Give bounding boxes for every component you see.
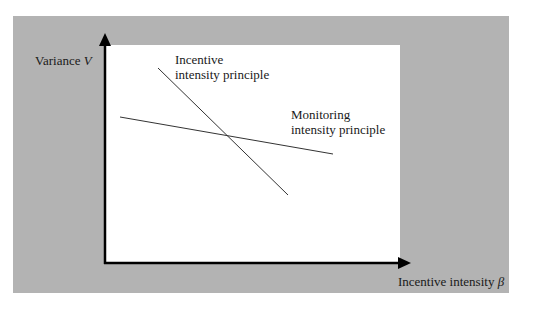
- x-axis-symbol: β: [498, 274, 504, 289]
- monitoring-annotation-line1: Monitoring: [291, 107, 385, 122]
- x-axis-label: Incentive intensity β: [398, 274, 504, 289]
- monitoring-principle-annotation: Monitoring intensity principle: [291, 107, 385, 137]
- diagram-canvas: [0, 0, 542, 319]
- y-axis-arrow-icon: [99, 33, 111, 46]
- monitoring-annotation-line2: intensity principle: [291, 122, 385, 137]
- y-axis-label: Variance V: [35, 53, 92, 68]
- incentive-annotation-line2: intensity principle: [175, 67, 269, 82]
- y-axis-label-text: Variance: [35, 53, 84, 68]
- incentive-intensity-line: [158, 68, 288, 195]
- x-axis-arrow-icon: [398, 257, 411, 269]
- y-axis-symbol: V: [84, 53, 92, 68]
- incentive-principle-annotation: Incentive intensity principle: [175, 52, 269, 82]
- incentive-annotation-line1: Incentive: [175, 52, 269, 67]
- x-axis-label-text: Incentive intensity: [398, 274, 498, 289]
